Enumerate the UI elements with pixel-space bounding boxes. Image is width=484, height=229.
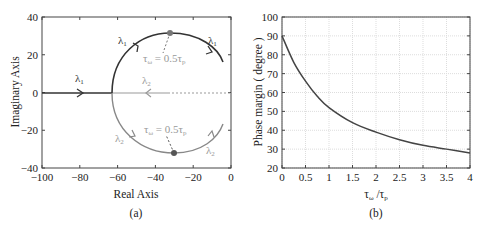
x-tick-label: −40 bbox=[147, 171, 165, 183]
y-tick-label: 50 bbox=[267, 105, 279, 117]
x-tick-label: 1 bbox=[326, 171, 332, 183]
y-tick-label: 0 bbox=[33, 87, 39, 99]
x-tick-label: 2 bbox=[373, 171, 379, 183]
x-tick-label: −20 bbox=[185, 171, 203, 183]
y-axis-label-b: Phase margin ( degree ) bbox=[252, 37, 265, 146]
y-tick-label: 20 bbox=[27, 49, 39, 61]
x-axis-label-a: Real Axis bbox=[113, 188, 159, 200]
x-tick-label: 0.5 bbox=[299, 171, 313, 183]
y-tick-label: 70 bbox=[267, 68, 279, 80]
y-tick-label: 80 bbox=[267, 49, 279, 61]
x-tick-label: 3.5 bbox=[440, 171, 454, 183]
y-tick-label: 40 bbox=[267, 124, 279, 136]
x-tick-label: 0 bbox=[279, 171, 285, 183]
x-tick-label: 1.5 bbox=[346, 171, 360, 183]
root-locus-plot: −100−80−60−40−20040200−20−40 λ1 λ1 λ1 λ2… bbox=[9, 11, 234, 220]
figure: −100−80−60−40−20040200−20−40 λ1 λ1 λ1 λ2… bbox=[0, 0, 484, 229]
x-tick-label: 0 bbox=[228, 171, 234, 183]
y-tick-label: −40 bbox=[21, 162, 39, 174]
y-tick-label: −20 bbox=[21, 124, 39, 136]
y-axis-label-a: Imaginary Axis bbox=[9, 56, 22, 128]
y-tick-label: 60 bbox=[267, 87, 279, 99]
y-tick-label: 30 bbox=[267, 143, 279, 155]
y-tick-label: 90 bbox=[267, 30, 279, 42]
x-axis-label-b: τω /τp bbox=[364, 188, 388, 202]
panel-label-a: (a) bbox=[130, 207, 143, 220]
x-tick-label: −60 bbox=[109, 171, 127, 183]
x-tick-label: −80 bbox=[71, 171, 89, 183]
y-tick-label: 20 bbox=[267, 162, 279, 174]
y-tick-label: 40 bbox=[27, 11, 39, 23]
phase-margin-plot: 00.511.522.533.541009080706050403020 τω … bbox=[252, 11, 473, 220]
x-tick-label: 3 bbox=[420, 171, 426, 183]
x-tick-label: 4 bbox=[467, 171, 473, 183]
x-tick-label: 2.5 bbox=[393, 171, 407, 183]
panel-label-b: (b) bbox=[369, 207, 383, 220]
y-tick-label: 100 bbox=[262, 11, 279, 23]
